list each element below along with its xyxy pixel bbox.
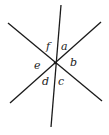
angle-label-f: f xyxy=(45,40,52,53)
angle-label-d: d xyxy=(42,75,49,88)
angle-diagram: a b c d e f xyxy=(0,0,109,135)
angle-label-e: e xyxy=(34,59,41,72)
intersection-point xyxy=(54,62,57,65)
angle-label-c: c xyxy=(58,75,64,88)
angle-label-a: a xyxy=(61,40,68,53)
angle-label-b: b xyxy=(70,56,77,69)
